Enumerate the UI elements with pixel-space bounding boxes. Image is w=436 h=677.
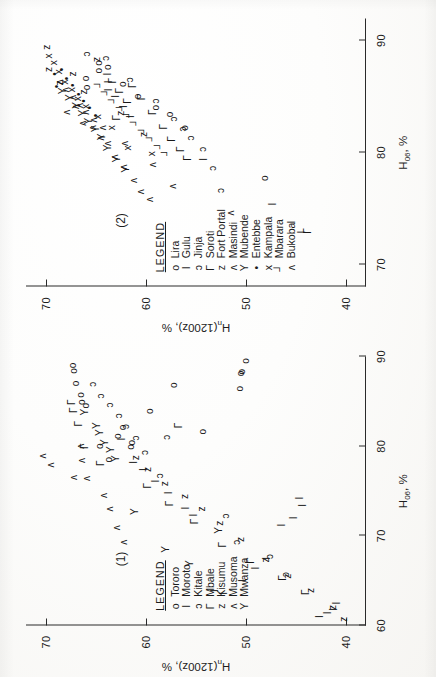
panel-tag-1: (1) <box>114 551 128 566</box>
data-point: Y <box>80 408 90 415</box>
x-tick-label: 70 <box>375 529 387 542</box>
data-point: Y <box>111 455 121 462</box>
data-point: I <box>164 491 174 494</box>
data-point: ʌ <box>145 197 155 202</box>
legend-label: Jinja <box>193 236 205 258</box>
data-point: Γ <box>303 228 313 234</box>
data-point: ʌ <box>136 189 146 194</box>
data-point: I <box>289 516 299 519</box>
data-point: ┘ <box>147 134 157 141</box>
data-point: z <box>261 557 271 562</box>
data-point: Y <box>112 155 122 162</box>
data-point: ɔ <box>125 77 135 82</box>
data-point: I <box>129 460 139 463</box>
x-tick-label: 80 <box>375 439 387 452</box>
data-point: ɔ <box>131 435 141 440</box>
data-point: ɔ <box>208 165 218 170</box>
data-point: z <box>236 536 246 541</box>
data-point: I <box>210 589 220 592</box>
legend-symbol-icon: ɔ <box>193 263 205 272</box>
data-point: Γ <box>67 399 77 405</box>
data-point: ɔ <box>114 413 124 418</box>
data-point: Y <box>121 165 131 172</box>
data-point: ʌ <box>119 539 129 544</box>
data-point: I <box>277 523 287 526</box>
data-point: Y <box>92 422 102 429</box>
data-point: o <box>71 380 81 386</box>
data-point: ʌ <box>168 183 178 188</box>
data-point: x <box>54 69 64 74</box>
legend-label: Entebbe <box>251 219 263 258</box>
data-point: Γ <box>218 542 228 548</box>
data-point: Γ <box>174 422 184 428</box>
data-point: Γ <box>159 123 169 129</box>
data-point: ɔ <box>105 402 115 407</box>
data-point: I <box>295 496 305 499</box>
data-point: Y <box>214 527 224 534</box>
data-point: I <box>238 579 248 582</box>
data-point: o <box>198 429 208 435</box>
data-point: ┘ <box>102 88 112 95</box>
data-point: ʌ <box>75 102 85 107</box>
data-point: Y <box>95 429 105 436</box>
data-point: ɔ <box>162 434 172 439</box>
y-tick-label: 50 <box>240 635 252 648</box>
legend-item: ɔJinja <box>193 209 205 272</box>
data-point: I <box>268 202 278 205</box>
data-point: ɔ <box>88 381 98 386</box>
data-point: ʌ <box>129 178 139 183</box>
data-point: Y <box>161 545 171 552</box>
data-point: Y <box>130 508 140 515</box>
x-tick-label: 80 <box>375 145 387 158</box>
x-tick <box>359 263 366 264</box>
data-point: o <box>126 444 136 450</box>
data-point: z <box>306 588 316 593</box>
data-point: x <box>49 60 59 65</box>
legend-title-2: LEGEND <box>155 209 167 272</box>
data-point: Γ <box>143 482 153 488</box>
y-tick <box>146 280 147 287</box>
data-point: Γ <box>123 98 133 104</box>
panel-1: H06, % Hn(1200z), % (1) LEGEND oTororoIM… <box>0 339 436 677</box>
data-point: z <box>283 573 293 578</box>
data-point: ┘ <box>124 110 134 117</box>
x-tick-label: 70 <box>375 258 387 271</box>
data-point: I <box>315 615 325 618</box>
data-point: Γ <box>167 136 177 142</box>
data-point: o <box>235 386 245 392</box>
panel-tag-2: (2) <box>114 213 128 228</box>
data-point: I <box>298 503 308 506</box>
y-tick <box>246 618 247 625</box>
x-tick-label: 90 <box>375 349 387 362</box>
data-point: Γ <box>115 88 125 94</box>
y-tick-label: 70 <box>40 635 52 648</box>
data-point: ┘ <box>95 80 105 87</box>
x-tick <box>359 445 366 446</box>
y-axis-label-2: Hn(1200z), % <box>162 319 230 334</box>
x-tick <box>359 355 366 356</box>
data-point: o <box>77 399 87 405</box>
y-tick-label: 40 <box>340 635 352 648</box>
data-point: ɔ <box>178 126 188 131</box>
data-point: ɔ <box>221 513 231 518</box>
data-point: z <box>92 56 102 61</box>
data-point: x <box>44 53 54 58</box>
data-point: I <box>181 506 191 509</box>
data-point: x <box>147 151 157 156</box>
legend-item: YMwanza <box>239 556 251 610</box>
data-point: Γ <box>183 155 193 161</box>
data-point: ɔ <box>101 55 111 60</box>
data-point: o <box>237 368 247 374</box>
data-point: z <box>215 520 225 525</box>
y-tick-label: 50 <box>240 297 252 310</box>
data-point: ┘ <box>162 148 172 155</box>
panel-2: H06, % Hn(1200z), % (2) LEGEND oLiraIGul… <box>0 0 436 339</box>
data-point: Γ <box>108 78 118 84</box>
x-tick-label: 90 <box>375 33 387 46</box>
data-point: Γ <box>246 558 256 564</box>
y-tick <box>346 280 347 287</box>
data-point: o <box>241 358 251 364</box>
legend-title-1: LEGEND <box>155 556 167 610</box>
data-point: ┘ <box>109 96 119 103</box>
data-point: z <box>42 44 52 49</box>
